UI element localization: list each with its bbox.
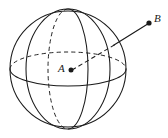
point-b-label: B bbox=[154, 13, 161, 24]
sphere-figure: A B bbox=[0, 0, 168, 138]
point-a-marker bbox=[69, 68, 74, 73]
point-b-marker bbox=[146, 20, 151, 25]
segment-ab-exterior-solid bbox=[114, 24, 149, 46]
sphere-diagram-canvas bbox=[0, 0, 168, 138]
sphere-outline-circle bbox=[10, 11, 126, 127]
point-a-label: A bbox=[58, 63, 65, 74]
